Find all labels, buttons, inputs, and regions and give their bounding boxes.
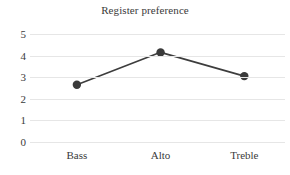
gridline <box>30 34 285 35</box>
y-axis-tick-label: 0 <box>0 137 26 148</box>
gridline <box>30 120 285 121</box>
plot-area <box>30 34 285 142</box>
x-axis-tick-label: Bass <box>66 150 87 161</box>
y-axis-tick-label: 4 <box>0 50 26 61</box>
series-line <box>77 52 244 84</box>
gridline <box>30 142 285 143</box>
x-axis-tick-label: Alto <box>151 150 171 161</box>
gridline <box>30 77 285 78</box>
gridline <box>30 56 285 57</box>
gridline <box>30 99 285 100</box>
line-chart: Register preference 543210 BassAltoTrebl… <box>0 0 290 175</box>
x-axis-tick-labels: BassAltoTreble <box>30 150 285 168</box>
series-line-register-preference <box>30 34 285 142</box>
chart-title: Register preference <box>0 4 290 16</box>
y-axis-tick-label: 1 <box>0 115 26 126</box>
y-axis-tick-label: 5 <box>0 29 26 40</box>
y-axis-tick-label: 3 <box>0 72 26 83</box>
y-axis-tick-label: 2 <box>0 93 26 104</box>
data-point-marker <box>73 81 81 89</box>
y-axis-tick-labels: 543210 <box>0 34 26 142</box>
data-point-marker <box>240 72 248 80</box>
x-axis-tick-label: Treble <box>230 150 258 161</box>
